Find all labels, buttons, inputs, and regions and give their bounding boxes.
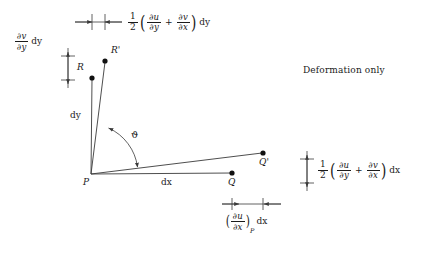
formula-shear-strain-dy: 1 2 ( ∂u ∂y + ∂v ∂x ) dy <box>128 12 210 32</box>
point-R <box>89 75 94 80</box>
formula-top-multiplier: dy <box>199 18 210 27</box>
dimension-right-vertical <box>300 151 314 191</box>
element-edges <box>91 62 262 174</box>
formula-normal-strain-dx: ( ∂u ∂x ) P dx <box>226 212 267 231</box>
fraction-dv-dx-right: ∂v ∂x <box>367 161 380 180</box>
formula-normal-strain-dy: ∂v ∂y dy <box>14 32 42 51</box>
formula-shear-strain-dx: 1 2 ( ∂u ∂y + ∂v ∂x ) dx <box>318 160 400 180</box>
deformation-figure: R R' P Q Q' dy dx ϑ Deformation only ∂v … <box>0 0 424 253</box>
coefficient-one-half-right: 1 2 <box>318 160 328 180</box>
edge-PR <box>91 79 92 174</box>
edge-PQprime <box>91 153 262 174</box>
close-paren-right: ) <box>381 162 386 178</box>
dimension-bottom-horizontal <box>222 198 281 210</box>
subscript-P-bottom: P <box>250 228 254 235</box>
open-paren-bottom: ( <box>226 215 230 228</box>
fraction-dv-dy: ∂v ∂y <box>15 32 28 51</box>
dimension-label-dy: dy <box>70 111 81 120</box>
dimension-top-horizontal <box>75 14 122 30</box>
dimension-left-vertical <box>61 48 75 88</box>
point-label-R: R <box>77 63 84 72</box>
operator-plus-right: + <box>355 166 363 175</box>
formula-right-multiplier: dx <box>389 166 400 175</box>
diagram-canvas <box>0 0 424 253</box>
open-paren-top: ( <box>140 14 145 30</box>
angle-label-theta: ϑ <box>131 130 138 140</box>
close-paren-bottom: ) <box>246 215 250 228</box>
point-Q <box>229 170 234 175</box>
operator-plus-top: + <box>165 18 173 27</box>
fraction-dv-dx-top: ∂v ∂x <box>177 13 190 32</box>
open-paren-right: ( <box>330 162 335 178</box>
figure-caption: Deformation only <box>303 66 385 75</box>
point-label-Qprime: Q' <box>259 158 269 167</box>
point-label-Q: Q <box>228 178 235 187</box>
edge-PQ <box>91 173 232 174</box>
dimension-label-dx: dx <box>161 178 172 187</box>
point-label-P: P <box>83 178 89 187</box>
coefficient-one-half-top: 1 2 <box>128 12 138 32</box>
formula-bottom-multiplier: dx <box>256 217 267 226</box>
vertex-dots <box>89 58 265 175</box>
point-Rprime <box>102 58 107 63</box>
close-paren-top: ) <box>191 14 196 30</box>
point-label-Rprime: R' <box>111 46 120 55</box>
point-Qprime <box>260 150 265 155</box>
formula-left-multiplier: dy <box>31 37 42 46</box>
fraction-du-dx-bottom: ∂u ∂x <box>231 212 245 231</box>
fraction-du-dy-right: ∂u ∂y <box>337 161 351 180</box>
fraction-du-dy-top: ∂u ∂y <box>147 13 161 32</box>
